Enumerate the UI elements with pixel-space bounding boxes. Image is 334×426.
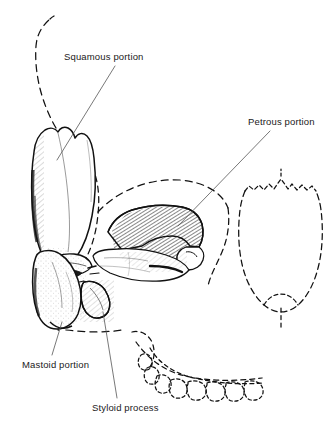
posterior-base-outline bbox=[208, 208, 229, 286]
cranial-vault-tip bbox=[50, 15, 56, 19]
mastoid-portion-region bbox=[30, 248, 86, 332]
tooth bbox=[225, 382, 244, 401]
dental-arcade-inner bbox=[150, 348, 264, 384]
leader-petrous bbox=[178, 131, 270, 226]
palate-posterior-notch bbox=[264, 294, 298, 305]
leader-styloid bbox=[103, 312, 117, 398]
label-mastoid-portion: Mastoid portion bbox=[22, 360, 89, 370]
palate-superior-border bbox=[245, 179, 316, 191]
skull-base-line bbox=[66, 330, 122, 332]
tooth bbox=[206, 382, 225, 401]
label-styloid-process: Styloid process bbox=[92, 403, 159, 413]
tooth bbox=[138, 354, 152, 370]
petrous-portion-region bbox=[93, 200, 215, 281]
cranial-vault-outline bbox=[36, 19, 56, 128]
styloid-process-region bbox=[80, 280, 114, 322]
dental-arcade-teeth bbox=[138, 354, 263, 401]
label-petrous-portion: Petrous portion bbox=[248, 117, 315, 127]
squamous-portion-region bbox=[28, 120, 95, 270]
tooth bbox=[187, 381, 206, 400]
anatomy-figure: Squamous portion Petrous portion Mastoid… bbox=[0, 0, 334, 426]
dental-arcade-outer bbox=[136, 342, 262, 380]
label-squamous-portion: Squamous portion bbox=[64, 52, 144, 62]
tooth bbox=[169, 379, 187, 398]
